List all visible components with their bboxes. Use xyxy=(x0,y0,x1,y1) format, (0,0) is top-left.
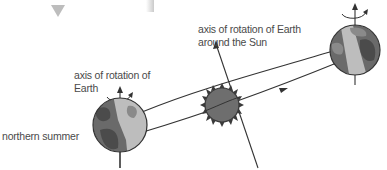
sun-axis-label-line1: axis of rotation of Earth xyxy=(198,23,301,36)
sun-axis-label-line2: around the Sun xyxy=(198,36,301,49)
orbit-direction-arrow-icon xyxy=(279,88,288,93)
orbit-lines xyxy=(142,51,339,132)
season-label: northern summer xyxy=(2,130,79,143)
earth-right xyxy=(330,3,380,85)
sun-icon xyxy=(200,83,244,127)
diagram-canvas xyxy=(0,0,387,170)
earth-axis-label-line1: axis of rotation of xyxy=(74,69,150,82)
earth-axis-label: axis of rotation of Earth xyxy=(74,69,150,95)
down-triangle-icon xyxy=(51,5,65,17)
earth-left xyxy=(93,86,160,168)
earth-axis-label-line2: Earth xyxy=(74,82,150,95)
sun-axis-label: axis of rotation of Earth around the Sun xyxy=(198,23,301,49)
orbit-diagram: axis of rotation of Earth around the Sun… xyxy=(0,0,387,170)
